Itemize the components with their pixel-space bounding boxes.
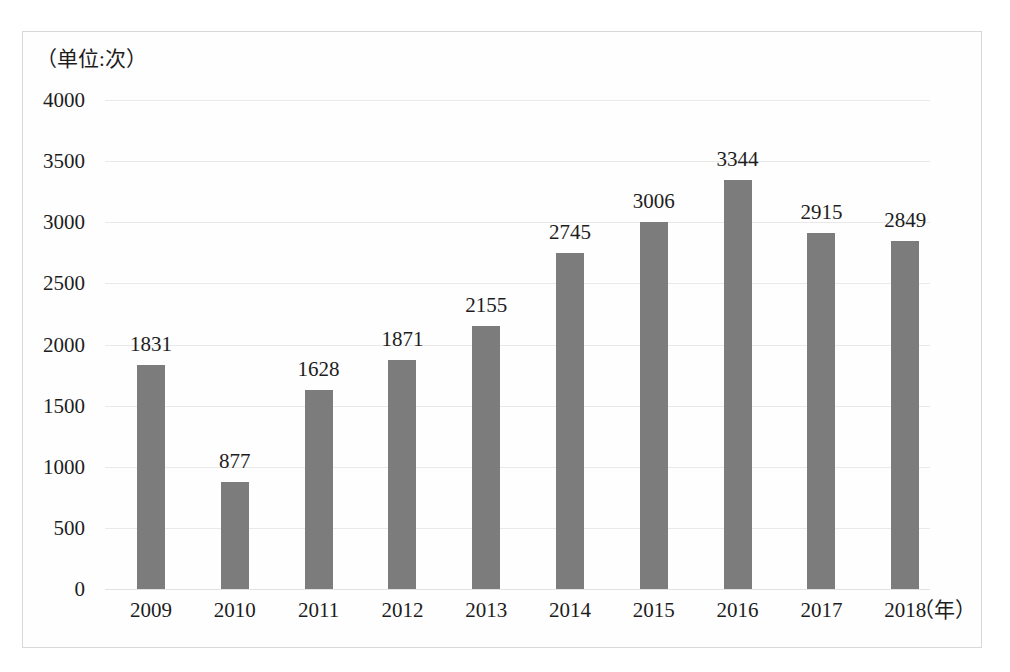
bar-value-label: 2915 [781, 202, 861, 223]
gridline [105, 283, 930, 284]
y-axis-tick-label: 1000 [21, 456, 85, 477]
bar-value-label: 2155 [446, 295, 526, 316]
bar-value-label: 1628 [279, 359, 359, 380]
bar-value-label: 1871 [362, 329, 442, 350]
bar-value-label: 2745 [530, 222, 610, 243]
y-axis-tick-label: 0 [21, 579, 85, 600]
gridline [105, 161, 930, 162]
x-axis-tick-label: 2012 [362, 600, 442, 621]
x-axis-tick-label: 2013 [446, 600, 526, 621]
bar-value-label: 3344 [698, 149, 778, 170]
y-axis-tick-label: 2000 [21, 334, 85, 355]
bar[interactable] [807, 233, 835, 589]
plot-area [105, 100, 930, 589]
bar[interactable] [305, 390, 333, 589]
y-axis-tick-label: 3500 [21, 151, 85, 172]
y-axis-tick-label: 4000 [21, 90, 85, 111]
bar[interactable] [556, 253, 584, 589]
bar-value-label: 2849 [865, 210, 945, 231]
bar[interactable] [388, 360, 416, 589]
y-axis-tick-label: 1500 [21, 395, 85, 416]
y-axis-tick-label: 3000 [21, 212, 85, 233]
bar[interactable] [724, 180, 752, 589]
bar[interactable] [891, 241, 919, 589]
x-axis-tick-label: 2015 [614, 600, 694, 621]
x-axis-unit-label: （年） [913, 600, 976, 621]
y-axis-tick-label: 2500 [21, 273, 85, 294]
x-axis-tick-label: 2017 [781, 600, 861, 621]
gridline [105, 345, 930, 346]
bar-value-label: 3006 [614, 191, 694, 212]
bar-value-label: 877 [195, 451, 275, 472]
bar[interactable] [221, 482, 249, 589]
y-axis-tick-label: 500 [21, 517, 85, 538]
chart-page: （单位:次） 05001000150020002500300035004000 … [0, 0, 1010, 672]
bar[interactable] [472, 326, 500, 589]
bar[interactable] [137, 365, 165, 589]
gridline [105, 100, 930, 101]
x-axis-tick-label: 2010 [195, 600, 275, 621]
y-axis-unit-caption: （单位:次） [36, 42, 147, 72]
bar[interactable] [640, 222, 668, 589]
x-axis-tick-label: 2014 [530, 600, 610, 621]
bar-value-label: 1831 [111, 334, 191, 355]
y-axis-tick-labels: 05001000150020002500300035004000 [21, 100, 85, 589]
x-axis-tick-label: 2016 [698, 600, 778, 621]
x-axis-tick-label: 2009 [111, 600, 191, 621]
gridline [105, 589, 930, 590]
gridline [105, 406, 930, 407]
x-axis-tick-label: 2011 [279, 600, 359, 621]
